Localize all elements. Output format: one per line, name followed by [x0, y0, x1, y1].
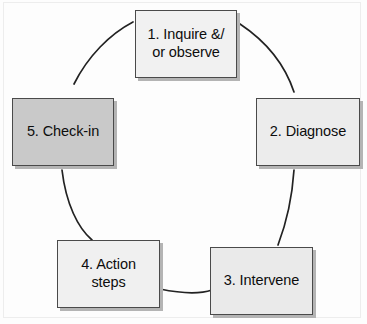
- arc-node2-to-node3: [278, 170, 294, 245]
- cycle-node-diagnose[interactable]: 2. Diagnose: [256, 98, 360, 166]
- cycle-node-label: 5. Check-in: [24, 123, 102, 141]
- cycle-node-check-in[interactable]: 5. Check-in: [12, 98, 114, 166]
- arc-node1-to-node2: [240, 24, 294, 92]
- diagram-canvas: 1. Inquire &/ or observe 2. Diagnose 3. …: [0, 0, 367, 324]
- cycle-node-intervene[interactable]: 3. Intervene: [210, 247, 313, 315]
- arc-node5-to-node1: [74, 22, 133, 84]
- arc-node3-to-node4: [160, 289, 212, 293]
- cycle-node-label: 4. Action steps: [78, 256, 139, 291]
- cycle-node-label: 1. Inquire &/ or observe: [145, 26, 228, 61]
- cycle-node-inquire-or-observe[interactable]: 1. Inquire &/ or observe: [135, 10, 237, 78]
- cycle-node-label: 3. Intervene: [221, 272, 302, 290]
- arc-node4-to-node5: [62, 170, 92, 240]
- cycle-node-label: 2. Diagnose: [267, 123, 349, 141]
- cycle-node-action-steps[interactable]: 4. Action steps: [57, 240, 160, 308]
